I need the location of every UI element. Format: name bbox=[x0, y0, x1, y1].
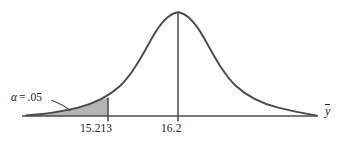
alpha-value: .05 bbox=[28, 91, 42, 103]
normal-distribution-figure: α=.05 15.213 16.2 y bbox=[0, 0, 345, 147]
y-bar-symbol: y bbox=[325, 104, 330, 118]
alpha-leader-line bbox=[52, 101, 70, 111]
alpha-equals-sign: = bbox=[17, 91, 28, 103]
tick-label-cutoff: 15.213 bbox=[80, 122, 112, 134]
bell-curve bbox=[26, 12, 316, 115]
axis-variable-label: y bbox=[325, 104, 330, 119]
tick-label-mean: 16.2 bbox=[161, 122, 182, 134]
alpha-annotation: α=.05 bbox=[11, 91, 42, 103]
